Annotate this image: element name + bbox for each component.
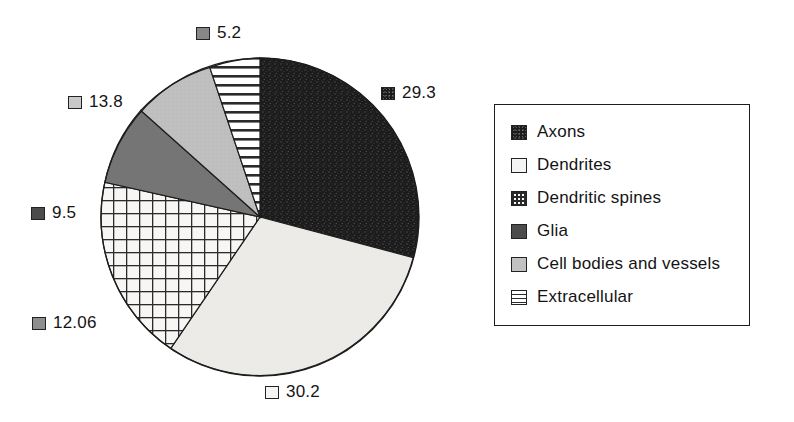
cell-bodies-swatch-icon: [511, 257, 527, 272]
legend-item-glia: Glia: [511, 215, 749, 248]
legend-item-label: Axons: [537, 123, 585, 142]
value-text: 13.8: [89, 93, 123, 111]
legend-item-dendrites: Dendrites: [511, 149, 749, 182]
dendrites-swatch-icon: [265, 386, 279, 399]
legend-item-label: Dendritic spines: [537, 189, 661, 208]
legend-item-label: Extracellular: [537, 288, 633, 307]
dendrites-swatch-icon: [511, 158, 527, 173]
extracellular-swatch-icon: [511, 290, 527, 305]
pie-chart-figure: 5.2 29.3 13.8 9.5 12.06 30.2 Axons Dendr…: [0, 0, 794, 422]
legend-item-dendritic-spines: Dendritic spines: [511, 182, 749, 215]
legend-item-label: Cell bodies and vessels: [537, 255, 720, 274]
value-text: 12.06: [53, 314, 97, 332]
value-text: 29.3: [402, 84, 436, 102]
value-label-dendrites: 30.2: [265, 383, 320, 401]
value-label-dendritic-spines: 12.06: [32, 314, 97, 332]
cell-bodies-swatch-icon: [68, 96, 82, 109]
axons-swatch-icon: [511, 125, 527, 140]
value-text: 30.2: [286, 383, 320, 401]
value-label-axons: 29.3: [381, 84, 436, 102]
legend-item-label: Dendrites: [537, 156, 612, 175]
value-label-cell-bodies: 13.8: [68, 93, 123, 111]
dendritic-spines-swatch-icon: [32, 317, 46, 330]
pie-svg: [100, 57, 420, 377]
legend-item-axons: Axons: [511, 116, 749, 149]
legend-item-label: Glia: [537, 222, 568, 241]
glia-swatch-icon: [31, 207, 45, 220]
value-label-glia: 9.5: [31, 204, 76, 222]
dendritic-spines-swatch-icon: [511, 191, 527, 206]
chart-legend: Axons Dendrites Dendritic spines Glia Ce…: [494, 104, 750, 326]
value-text: 5.2: [217, 24, 241, 42]
legend-item-cell-bodies: Cell bodies and vessels: [511, 248, 749, 281]
legend-item-extracellular: Extracellular: [511, 281, 749, 314]
pie-chart-graphic: [100, 57, 420, 377]
extracellular-swatch-icon: [196, 27, 210, 40]
glia-swatch-icon: [511, 224, 527, 239]
value-label-extracellular: 5.2: [196, 24, 241, 42]
axons-swatch-icon: [381, 87, 395, 100]
value-text: 9.5: [52, 204, 76, 222]
